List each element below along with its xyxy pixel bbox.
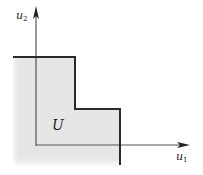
u2-axis-label-main: u bbox=[16, 9, 23, 22]
diagram-canvas: U u2 u1 bbox=[0, 0, 203, 175]
region-fade-bottom bbox=[10, 158, 122, 168]
u2-axis-label: u2 bbox=[16, 9, 28, 23]
region-u-label: U bbox=[52, 117, 65, 133]
u1-axis-label-subscript: 1 bbox=[183, 156, 187, 164]
u1-axis-label-main: u bbox=[176, 150, 183, 163]
u1-axis-label: u1 bbox=[176, 150, 188, 164]
region-u-fill bbox=[13, 57, 120, 166]
region-fade-left bbox=[10, 57, 18, 167]
u2-axis-label-subscript: 2 bbox=[23, 15, 27, 23]
